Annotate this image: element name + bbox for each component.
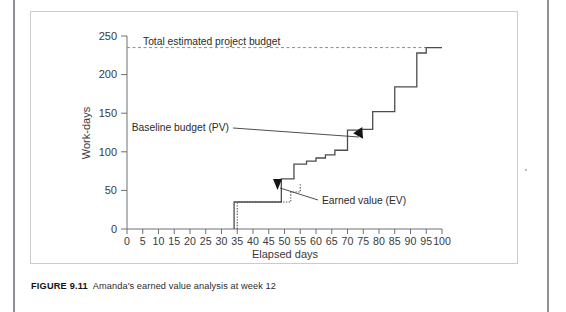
x-axis-tick-label: 10: [153, 235, 165, 247]
x-axis-tick-label: 95: [420, 235, 432, 247]
earned-value-chart: 050100150200250 051015202530354045505560…: [30, 11, 518, 264]
y-axis-title: Work-days: [80, 106, 92, 159]
figure-caption-text: Amanda's earned value analysis at week 1…: [93, 281, 276, 291]
chart-svg: 050100150200250 051015202530354045505560…: [30, 11, 518, 264]
x-axis-tick-label: 90: [405, 235, 417, 247]
y-axis-tick-label: 100: [99, 146, 117, 158]
x-axis-tick-label: 85: [389, 235, 401, 247]
x-axis-tick-label: 45: [263, 235, 275, 247]
x-axis-tick-labels: 0510152025303540455055606570758085909510…: [124, 235, 451, 247]
total-budget-annotation-label: Total estimated project budget: [143, 36, 281, 47]
earned-value-ev-step-line: [237, 184, 300, 229]
x-axis-tick-label: 100: [433, 235, 451, 247]
earned-value-leader-line: [280, 188, 318, 200]
x-axis-tick-label: 40: [247, 235, 259, 247]
book-page: 050100150200250 051015202530354045505560…: [0, 0, 566, 312]
page-gutter-right-rule: [547, 0, 549, 312]
y-axis-tick-label: 250: [99, 30, 117, 42]
x-axis-tick-label: 35: [231, 235, 243, 247]
y-axis-tick-label: 150: [99, 107, 117, 119]
x-axis-tick-label: 5: [140, 235, 146, 247]
x-axis-title: Elapsed days: [252, 248, 319, 260]
figure-number: FIGURE 9.11: [31, 281, 88, 291]
y-axis-tick-label: 0: [111, 223, 117, 235]
earned-value-annotation-label: Earned value (EV): [322, 195, 406, 206]
x-axis-tick-label: 50: [279, 235, 291, 247]
x-axis-tick-label: 60: [310, 235, 322, 247]
x-axis-tick-label: 15: [168, 235, 180, 247]
x-axis-tick-label: 30: [216, 235, 228, 247]
x-axis-tick-label: 70: [342, 235, 354, 247]
x-axis-tick-label: 75: [357, 235, 369, 247]
x-axis-tick-label: 25: [200, 235, 212, 247]
figure-caption: FIGURE 9.11Amanda's earned value analysi…: [31, 281, 521, 301]
x-axis-tick-label: 80: [373, 235, 385, 247]
y-axis-tick-label: 50: [105, 184, 117, 196]
baseline-budget-annotation-label: Baseline budget (PV): [132, 122, 229, 133]
y-axis-tick-label: 200: [99, 68, 117, 80]
x-axis-tick-label: 0: [124, 235, 130, 247]
x-axis-tick-label: 20: [184, 235, 196, 247]
page-speck-artifact: [525, 169, 527, 171]
page-gutter-left-rule: [13, 0, 15, 312]
y-axis-ticks: [121, 36, 127, 229]
x-axis-tick-label: 65: [326, 235, 338, 247]
baseline-budget-leader-line: [233, 128, 359, 137]
x-axis-ticks: [127, 229, 442, 234]
x-axis-tick-label: 55: [294, 235, 306, 247]
y-axis-tick-labels: 050100150200250: [99, 30, 117, 235]
